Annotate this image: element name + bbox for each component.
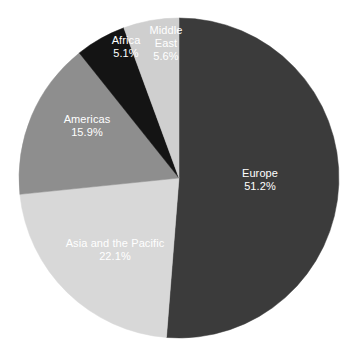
pie-slice-asia-and-the-pacific[interactable]: [20, 178, 179, 338]
pie-slice-europe[interactable]: [166, 18, 339, 338]
pie-chart-canvas: [0, 0, 357, 358]
pie-chart-figure: Europe51.2%Asia and the Pacific22.1%Amer…: [0, 0, 357, 358]
